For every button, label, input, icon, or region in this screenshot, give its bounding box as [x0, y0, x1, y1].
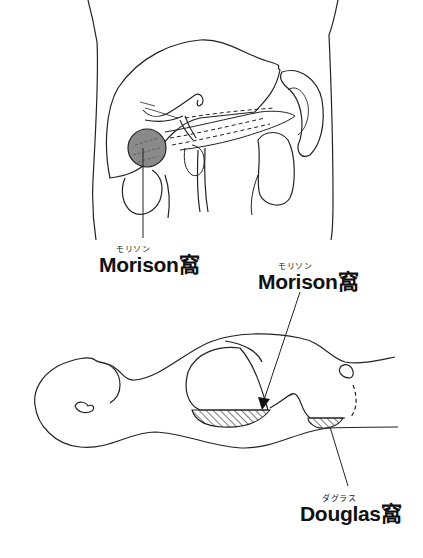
- douglas-leader-line: [330, 427, 348, 486]
- anatomy-illustration: [0, 0, 423, 558]
- diagram-canvas: モリソン Morison窩 モリソン Morison窩 ダグラス Douglas…: [0, 0, 423, 558]
- left-kidney: [251, 133, 294, 216]
- morison-top-label: Morison窩: [99, 254, 199, 275]
- morison-side-label: Morison窩: [258, 271, 358, 292]
- morison-fluid-area: [192, 410, 270, 427]
- morison-arrowhead: [258, 397, 270, 410]
- douglas-fluid-area: [308, 418, 343, 428]
- supine-body: [35, 334, 398, 448]
- douglas-label: Douglas窩: [300, 503, 401, 524]
- morison-pouch-marker: [128, 129, 166, 167]
- pancreas: [165, 108, 295, 176]
- morison-arrow-line: [264, 292, 300, 400]
- spleen: [281, 71, 324, 157]
